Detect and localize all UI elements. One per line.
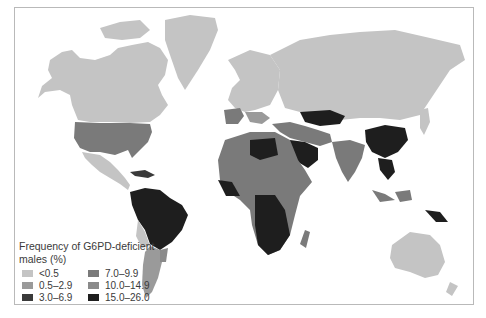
europe xyxy=(224,50,280,124)
legend-item: 0.5–2.9 xyxy=(22,280,88,291)
legend-item: 15.0–26.0 xyxy=(88,292,188,303)
legend-swatch xyxy=(88,294,99,301)
legend-label: 10.0–14.9 xyxy=(105,280,150,291)
legend-item: 7.0–9.9 xyxy=(88,268,188,279)
legend-item: 3.0–6.9 xyxy=(22,292,88,303)
legend-swatch xyxy=(22,294,33,301)
legend-label: <0.5 xyxy=(39,268,59,279)
legend: Frequency of G6PD-deficient males (%) <0… xyxy=(19,240,209,303)
legend-title-line1: Frequency of G6PD-deficient xyxy=(19,240,209,253)
legend-swatch xyxy=(88,270,99,277)
legend-item: <0.5 xyxy=(22,268,88,279)
legend-label: 0.5–2.9 xyxy=(39,280,72,291)
legend-swatch xyxy=(88,282,99,289)
legend-title-line2: males (%) xyxy=(19,253,209,266)
legend-label: 15.0–26.0 xyxy=(105,292,150,303)
legend-item: 10.0–14.9 xyxy=(88,280,188,291)
legend-label: 3.0–6.9 xyxy=(39,292,72,303)
north-america xyxy=(38,15,218,190)
legend-items: <0.5 7.0–9.9 0.5–2.9 10.0–14.9 3.0–6.9 1… xyxy=(22,268,209,303)
legend-label: 7.0–9.9 xyxy=(105,268,138,279)
oceania xyxy=(390,232,458,296)
legend-swatch xyxy=(22,282,33,289)
legend-swatch xyxy=(22,270,33,277)
